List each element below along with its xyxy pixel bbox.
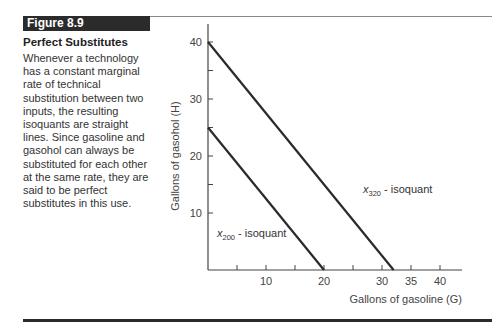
bottom-divider	[23, 319, 492, 322]
y-tick-label: 40	[190, 36, 202, 48]
x-tick-label: 10	[260, 275, 272, 287]
y-tick-label: 20	[190, 150, 202, 162]
isoquant-label: x200 - isoquant	[216, 227, 286, 242]
x-tick-label: 30	[376, 275, 388, 287]
y-axis-title: Gallons of gasohol (H)	[169, 101, 181, 210]
x-axis-title: Gallons of gasoline (G)	[350, 293, 463, 305]
x-tick-label: 20	[318, 275, 330, 287]
x-tick-label: 35	[405, 275, 417, 287]
y-tick-label: 30	[190, 93, 202, 105]
x-tick-label: 40	[434, 275, 446, 287]
isoquant-label: x320 - isoquant	[362, 183, 432, 198]
isoquant-line	[208, 128, 324, 271]
y-tick-label: 10	[190, 207, 202, 219]
chart-series: x200 - isoquantx320 - isoquant	[208, 42, 432, 270]
isoquant-chart: 102030354010203040 x200 - isoquantx320 -…	[0, 0, 492, 326]
